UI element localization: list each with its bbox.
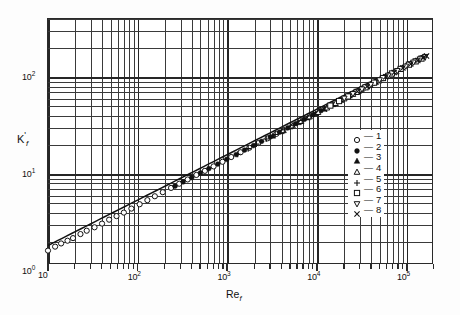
x-tick-mark xyxy=(379,264,380,269)
x-tick-mark xyxy=(289,264,290,269)
x-tick-mark xyxy=(74,264,75,269)
x-tick-mark xyxy=(207,264,208,269)
legend-dash: — xyxy=(364,152,373,162)
x-tick-mark xyxy=(218,264,219,269)
legend-label: 7 xyxy=(376,195,381,205)
legend-dash: — xyxy=(364,142,373,152)
x-tick-mark xyxy=(117,264,118,269)
legend-item-8[interactable]: —8 xyxy=(352,205,381,216)
legend-dash: — xyxy=(364,163,373,173)
x-tick-mark xyxy=(281,264,282,269)
plot-area: —1—2—3—4—5—6—7—8 xyxy=(47,18,433,264)
legend-label: 1 xyxy=(376,131,381,141)
x-tick-mark xyxy=(133,264,134,269)
x-tick-mark xyxy=(180,264,181,269)
filled-triangle-up-icon xyxy=(352,152,363,162)
legend-label: 6 xyxy=(376,184,381,194)
x-tick-mark xyxy=(123,264,124,269)
legend-label: 8 xyxy=(376,205,381,215)
legend-item-6[interactable]: —6 xyxy=(352,184,381,195)
x-tick-mark xyxy=(312,264,313,269)
x-tick-mark xyxy=(128,264,129,269)
x-tick-mark xyxy=(101,264,102,269)
x-tick-label: 102 xyxy=(128,270,141,282)
y-tick-label: 102 xyxy=(22,70,35,82)
x-tick-mark xyxy=(222,264,223,269)
open-triangle-up-icon xyxy=(352,163,363,173)
chart-figure: K'f Ref —1—2—3—4—5—6—7—8 101021031041051… xyxy=(0,0,460,315)
x-tick-mark xyxy=(191,264,192,269)
legend-dash: — xyxy=(364,174,373,184)
legend-dash: — xyxy=(364,184,373,194)
x-tick-mark xyxy=(359,264,360,269)
legend-label: 2 xyxy=(376,142,381,152)
legend: —1—2—3—4—5—6—7—8 xyxy=(348,130,384,217)
x-tick-mark xyxy=(302,264,303,269)
legend-dash: — xyxy=(364,131,373,141)
x-tick-label: 103 xyxy=(217,270,230,282)
x-tick-mark xyxy=(269,264,270,269)
x-axis-title-subscript: f xyxy=(239,294,241,303)
x-tick-mark xyxy=(343,264,344,269)
x-tick-label: 10 xyxy=(38,270,48,280)
legend-label: 5 xyxy=(376,174,381,184)
x-tick-mark xyxy=(199,264,200,269)
plus-icon xyxy=(352,174,363,184)
open-triangle-down-icon xyxy=(352,195,363,205)
x-tick-mark xyxy=(397,264,398,269)
x-tick-mark xyxy=(433,264,434,269)
x-tick-mark xyxy=(110,264,111,269)
y-tick-label: 100 xyxy=(22,264,35,276)
x-tick-mark xyxy=(164,264,165,269)
x-tick-mark xyxy=(296,264,297,269)
x-tick-mark xyxy=(90,264,91,269)
legend-dash: — xyxy=(364,205,373,215)
legend-item-4[interactable]: —4 xyxy=(352,163,381,174)
filled-circle-icon xyxy=(352,142,363,152)
x-tick-mark xyxy=(392,264,393,269)
x-axis-title-base: Re xyxy=(226,288,239,300)
x-tick-mark xyxy=(370,264,371,269)
legend-label: 3 xyxy=(376,152,381,162)
x-tick-label: 105 xyxy=(397,270,410,282)
legend-label: 4 xyxy=(376,163,381,173)
y-axis-title: K'f xyxy=(17,131,28,148)
x-tick-mark xyxy=(402,264,403,269)
open-square-icon xyxy=(352,184,363,194)
x-tick-mark xyxy=(308,264,309,269)
legend-dash: — xyxy=(364,195,373,205)
open-circle-icon xyxy=(352,131,363,141)
x-tick-mark xyxy=(386,264,387,269)
x-tick-mark xyxy=(254,264,255,269)
x-axis-title: Ref xyxy=(226,288,242,303)
cross-icon xyxy=(352,205,363,215)
x-tick-mark xyxy=(213,264,214,269)
y-tick-label: 101 xyxy=(22,167,35,179)
x-tick-label: 104 xyxy=(307,270,320,282)
legend-item-1[interactable]: —1 xyxy=(352,131,381,142)
y-axis-title-subscript: f xyxy=(26,139,28,148)
